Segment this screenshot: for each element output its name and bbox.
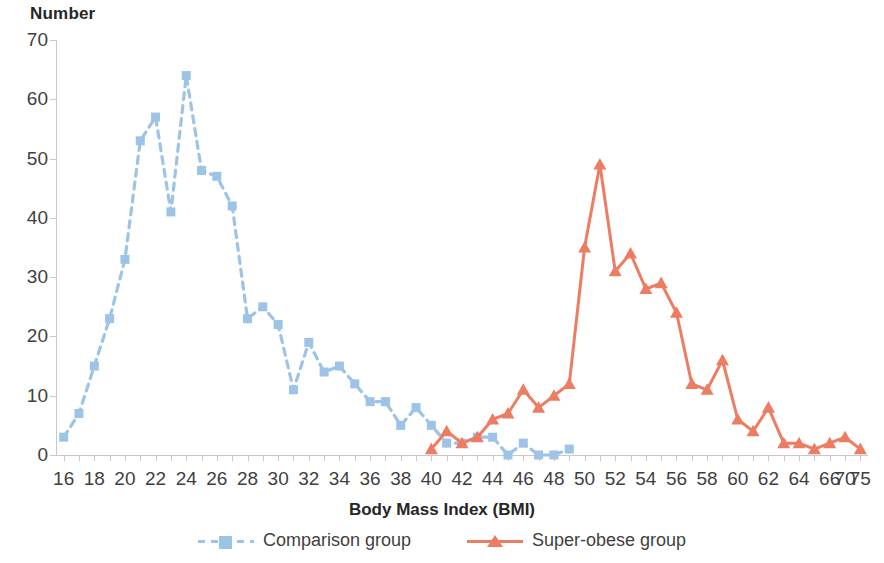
triangle-marker	[655, 277, 668, 289]
legend-label-super-obese-group: Super-obese group	[532, 530, 686, 551]
x-tick-label: 36	[359, 468, 380, 490]
square-marker	[151, 113, 160, 122]
x-tick-mark	[94, 455, 95, 461]
square-marker	[534, 451, 543, 460]
square-marker	[503, 451, 512, 460]
x-tick-mark	[799, 455, 800, 461]
x-tick-mark	[125, 455, 126, 461]
x-tick-mark	[339, 455, 340, 461]
x-tick-mark	[738, 455, 739, 461]
x-tick-mark	[202, 455, 203, 461]
square-marker	[166, 207, 175, 216]
x-tick-mark	[401, 455, 402, 461]
x-tick-mark	[355, 455, 356, 461]
x-tick-label: 20	[114, 468, 135, 490]
x-tick-mark	[784, 455, 785, 461]
y-tick-label: 40	[27, 207, 48, 229]
triangle-marker	[440, 425, 453, 437]
y-axis-title: Number	[30, 4, 95, 24]
series-line	[64, 76, 570, 455]
x-tick-mark	[569, 455, 570, 461]
x-tick-label: 30	[268, 468, 289, 490]
x-tick-mark	[477, 455, 478, 461]
x-tick-mark	[845, 455, 846, 461]
x-tick-mark	[370, 455, 371, 461]
triangle-marker	[593, 158, 606, 170]
x-tick-mark	[661, 455, 662, 461]
x-tick-label: 52	[605, 468, 626, 490]
series-super-obese-group	[425, 158, 867, 454]
square-marker	[258, 302, 267, 311]
x-tick-label: 64	[788, 468, 809, 490]
x-tick-mark	[646, 455, 647, 461]
x-tick-mark	[692, 455, 693, 461]
x-tick-label: 24	[176, 468, 197, 490]
x-tick-mark	[600, 455, 601, 461]
x-tick-mark	[248, 455, 249, 461]
square-marker	[427, 421, 436, 430]
x-tick-mark	[830, 455, 831, 461]
triangle-marker	[563, 377, 576, 389]
x-tick-mark	[631, 455, 632, 461]
triangle-marker	[517, 383, 530, 395]
x-tick-label: 60	[727, 468, 748, 490]
series-comparison-group	[59, 71, 574, 459]
x-tick-label: 46	[513, 468, 534, 490]
x-tick-mark	[278, 455, 279, 461]
square-marker	[197, 166, 206, 175]
triangle-marker	[716, 354, 729, 366]
x-tick-mark	[722, 455, 723, 461]
legend-swatch-comparison	[198, 533, 254, 549]
y-tick-label: 50	[27, 148, 48, 170]
x-tick-mark	[431, 455, 432, 461]
triangle-marker	[624, 247, 637, 259]
square-marker	[412, 403, 421, 412]
x-tick-label: 40	[421, 468, 442, 490]
x-axis-title: Body Mass Index (BMI)	[0, 500, 884, 520]
square-marker	[59, 433, 68, 442]
x-tick-mark	[186, 455, 187, 461]
y-tick-label: 60	[27, 88, 48, 110]
square-marker	[350, 379, 359, 388]
legend-item-comparison-group[interactable]: Comparison group	[198, 530, 411, 551]
x-tick-label: 38	[390, 468, 411, 490]
square-marker	[565, 445, 574, 454]
plot-area: 010203040506070 161820222426283032343638…	[56, 40, 868, 455]
x-tick-mark	[385, 455, 386, 461]
x-tick-label: 58	[697, 468, 718, 490]
bmi-distribution-chart: Number 010203040506070 16182022242628303…	[0, 0, 884, 563]
x-tick-mark	[64, 455, 65, 461]
square-marker	[549, 451, 558, 460]
square-marker	[488, 433, 497, 442]
y-tick-label: 30	[27, 266, 48, 288]
square-marker	[74, 409, 83, 418]
x-tick-label: 28	[237, 468, 258, 490]
x-tick-mark	[523, 455, 524, 461]
triangle-marker	[839, 431, 852, 443]
square-marker	[396, 421, 405, 430]
series-line	[431, 165, 860, 450]
y-tick-label: 70	[27, 29, 48, 51]
legend-square-marker-icon	[219, 536, 232, 549]
square-marker	[335, 362, 344, 371]
square-marker	[381, 397, 390, 406]
x-tick-mark	[156, 455, 157, 461]
square-marker	[519, 439, 528, 448]
x-tick-mark	[615, 455, 616, 461]
x-tick-mark	[110, 455, 111, 461]
square-marker	[366, 397, 375, 406]
square-marker	[136, 136, 145, 145]
y-tick-mark	[50, 455, 56, 456]
triangle-marker	[685, 377, 698, 389]
x-tick-label: 75	[850, 468, 871, 490]
x-tick-label: 18	[84, 468, 105, 490]
square-marker	[304, 338, 313, 347]
legend-swatch-super-obese	[467, 533, 523, 549]
x-tick-label: 34	[329, 468, 350, 490]
x-tick-mark	[324, 455, 325, 461]
legend-triangle-marker-icon	[487, 535, 503, 547]
x-tick-mark	[462, 455, 463, 461]
legend-item-super-obese-group[interactable]: Super-obese group	[467, 530, 686, 551]
x-tick-label: 50	[574, 468, 595, 490]
square-marker	[320, 368, 329, 377]
